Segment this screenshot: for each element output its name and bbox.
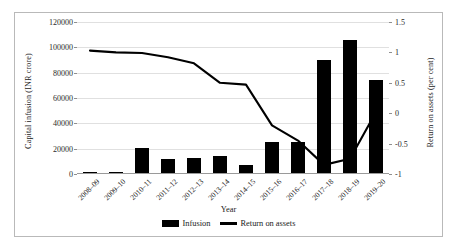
x-axis-line xyxy=(77,173,389,174)
chart-figure: Capital infusion (INR crore) Return on a… xyxy=(14,12,443,237)
chart-legend: Infusion Return on assets xyxy=(15,219,442,228)
y-axis-left-tick-label: 20000 xyxy=(13,144,73,153)
y-axis-left-tick-label: 40000 xyxy=(13,119,73,128)
y-axis-right-tick-label: 1 xyxy=(395,48,435,57)
y-axis-right-tick-label: 1.5 xyxy=(395,18,435,27)
y-axis-right-tick-mark xyxy=(389,144,392,145)
y-axis-right-tick-label: 0 xyxy=(395,109,435,118)
legend-item-infusion: Infusion xyxy=(162,219,211,228)
y-axis-left-tick-label: 100000 xyxy=(13,43,73,52)
y-axis-right-tick-label: -0.5 xyxy=(395,139,435,148)
legend-label-infusion: Infusion xyxy=(183,219,211,228)
legend-swatch-bar-icon xyxy=(162,220,179,227)
y-axis-right-tick-mark xyxy=(389,22,392,23)
y-axis-left-tick-mark xyxy=(74,174,77,175)
y-axis-left-tick-label: 0 xyxy=(13,170,73,179)
y-axis-right-tick-mark xyxy=(389,113,392,114)
legend-label-return-on-assets: Return on assets xyxy=(241,219,296,228)
y-axis-right-tick-mark xyxy=(389,52,392,53)
y-axis-right-tick-label: 0.5 xyxy=(395,78,435,87)
x-axis-title: Year xyxy=(15,205,442,214)
y-axis-left-tick-label: 60000 xyxy=(13,94,73,103)
y-axis-left-tick-label: 120000 xyxy=(13,18,73,27)
plot-area: 020000400006000080000100000120000 -1-0.5… xyxy=(77,22,389,174)
legend-item-return-on-assets: Return on assets xyxy=(220,219,296,228)
y-axis-right-tick-mark xyxy=(389,174,392,175)
y-axis-left-tick-label: 80000 xyxy=(13,68,73,77)
legend-swatch-line-icon xyxy=(220,222,237,224)
y-axis-right-title: Return on assets (per cent) xyxy=(426,20,440,185)
y-axis-right-tick-mark xyxy=(389,83,392,84)
y-axis-right-tick-label: -1 xyxy=(395,170,435,179)
line-series-return-on-assets xyxy=(77,22,389,174)
